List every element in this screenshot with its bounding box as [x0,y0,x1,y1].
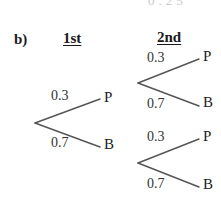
probability-label-s1-b: 0.7 [51,136,69,150]
outcome-label-s2-bb: B [203,177,213,192]
outcome-label-s2-pb: B [203,95,213,110]
probability-label-s2-bp: 0.3 [147,130,165,144]
probability-label-s2-bb: 0.7 [147,177,165,191]
probability-tree-figure: 0.25 b) 1st 2nd 0.3 P 0.7 B 0.3 P 0.7 B … [0,0,221,202]
outcome-label-s1-b: B [104,137,114,152]
outcome-label-s2-bp: P [203,129,211,144]
outcome-label-s1-p: P [104,90,112,105]
probability-label-s2-pb: 0.7 [147,97,165,111]
probability-label-s2-pp: 0.3 [147,51,165,65]
outcome-label-s2-pp: P [203,49,211,64]
probability-label-s1-p: 0.3 [51,89,69,103]
